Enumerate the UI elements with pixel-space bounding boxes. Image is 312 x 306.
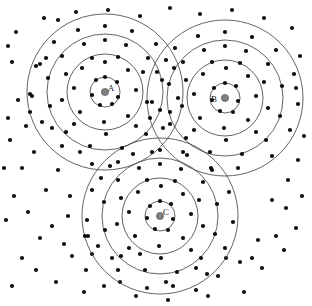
background-point bbox=[50, 126, 54, 130]
cluster-point-c bbox=[153, 227, 157, 231]
cluster-point-c bbox=[127, 246, 131, 250]
cluster-point-b bbox=[148, 116, 152, 120]
cluster-point-b bbox=[223, 81, 227, 85]
cluster-point-a bbox=[30, 94, 34, 98]
cluster-point-c bbox=[215, 202, 219, 206]
cluster-point-b bbox=[280, 84, 284, 88]
background-point bbox=[256, 238, 260, 242]
cluster-point-c bbox=[201, 224, 205, 228]
cluster-point-a bbox=[134, 88, 138, 92]
centroid-label-c: C bbox=[163, 207, 169, 217]
cluster-point-c bbox=[99, 176, 103, 180]
cluster-point-b bbox=[296, 102, 300, 106]
background-point bbox=[138, 14, 142, 18]
background-point bbox=[6, 44, 10, 48]
cluster-point-b bbox=[168, 110, 172, 114]
cluster-point-c bbox=[159, 256, 163, 260]
cluster-point-c bbox=[179, 167, 183, 171]
cluster-point-c bbox=[85, 218, 89, 222]
cluster-point-a bbox=[130, 29, 134, 33]
background-point bbox=[56, 18, 60, 22]
cluster-point-a bbox=[146, 56, 150, 60]
background-point bbox=[8, 138, 12, 142]
cluster-point-b bbox=[222, 126, 226, 130]
cluster-point-a bbox=[90, 56, 94, 60]
cluster-point-b bbox=[224, 66, 228, 70]
cluster-point-a bbox=[90, 162, 94, 166]
background-point bbox=[262, 16, 266, 20]
cluster-point-b bbox=[155, 70, 159, 74]
cluster-point-a bbox=[176, 96, 180, 100]
cluster-point-b bbox=[262, 80, 266, 84]
cluster-point-a bbox=[94, 78, 98, 82]
cluster-point-a bbox=[64, 130, 68, 134]
background-point bbox=[32, 150, 36, 154]
cluster-point-c bbox=[209, 166, 213, 170]
cluster-point-b bbox=[212, 86, 216, 90]
cluster-point-a bbox=[40, 120, 44, 124]
cluster-point-a bbox=[120, 146, 124, 150]
cluster-point-c bbox=[103, 228, 107, 232]
cluster-point-a bbox=[48, 104, 52, 108]
cluster-point-c bbox=[231, 220, 235, 224]
background-point bbox=[166, 298, 170, 302]
cluster-point-b bbox=[266, 62, 270, 66]
cluster-point-b bbox=[274, 48, 278, 52]
background-point bbox=[14, 30, 18, 34]
background-point bbox=[68, 194, 72, 198]
cluster-point-a bbox=[168, 122, 172, 126]
cluster-point-c bbox=[166, 228, 170, 232]
background-point bbox=[4, 218, 8, 222]
background-point bbox=[38, 62, 42, 66]
background-point bbox=[168, 6, 172, 10]
cluster-point-b bbox=[210, 60, 214, 64]
cluster-point-c bbox=[90, 188, 94, 192]
cluster-point-b bbox=[278, 114, 282, 118]
cluster-point-b bbox=[180, 104, 184, 108]
background-point bbox=[20, 256, 24, 260]
background-point bbox=[216, 274, 220, 278]
cluster-point-a bbox=[52, 40, 56, 44]
cluster-point-c bbox=[213, 232, 217, 236]
background-point bbox=[194, 288, 198, 292]
background-point bbox=[238, 260, 242, 264]
cluster-point-b bbox=[181, 150, 185, 154]
cluster-point-c bbox=[199, 256, 203, 260]
background-point bbox=[10, 60, 14, 64]
background-point bbox=[138, 252, 142, 256]
cluster-point-b bbox=[164, 58, 168, 62]
background-point bbox=[20, 166, 24, 170]
cluster-point-b bbox=[218, 109, 222, 113]
cluster-point-c bbox=[145, 216, 149, 220]
cluster-point-a bbox=[103, 24, 107, 28]
cluster-point-c bbox=[197, 198, 201, 202]
cluster-point-a bbox=[158, 108, 162, 112]
cluster-point-a bbox=[154, 42, 158, 46]
background-point bbox=[16, 98, 20, 102]
cluster-point-a bbox=[90, 93, 94, 97]
cluster-point-c bbox=[157, 244, 161, 248]
cluster-point-c bbox=[108, 164, 112, 168]
cluster-point-a bbox=[150, 150, 154, 154]
background-point bbox=[34, 268, 38, 272]
cluster-point-c bbox=[158, 148, 162, 152]
cluster-point-a bbox=[141, 70, 145, 74]
background-point bbox=[194, 266, 198, 270]
cluster-point-b bbox=[288, 128, 292, 132]
cluster-point-c bbox=[171, 217, 175, 221]
background-point bbox=[102, 284, 106, 288]
background-point bbox=[54, 280, 58, 284]
cluster-point-a bbox=[172, 66, 176, 70]
cluster-point-c bbox=[83, 234, 87, 238]
cluster-point-a bbox=[126, 68, 130, 72]
cluster-point-c bbox=[223, 246, 227, 250]
cluster-point-a bbox=[160, 78, 164, 82]
background-point bbox=[106, 8, 110, 12]
background-point bbox=[274, 234, 278, 238]
cluster-point-c bbox=[136, 190, 140, 194]
cluster-point-b bbox=[254, 130, 258, 134]
background-point bbox=[26, 210, 30, 214]
cluster-point-a bbox=[98, 103, 102, 107]
cluster-point-a bbox=[46, 76, 50, 80]
background-point bbox=[290, 26, 294, 30]
